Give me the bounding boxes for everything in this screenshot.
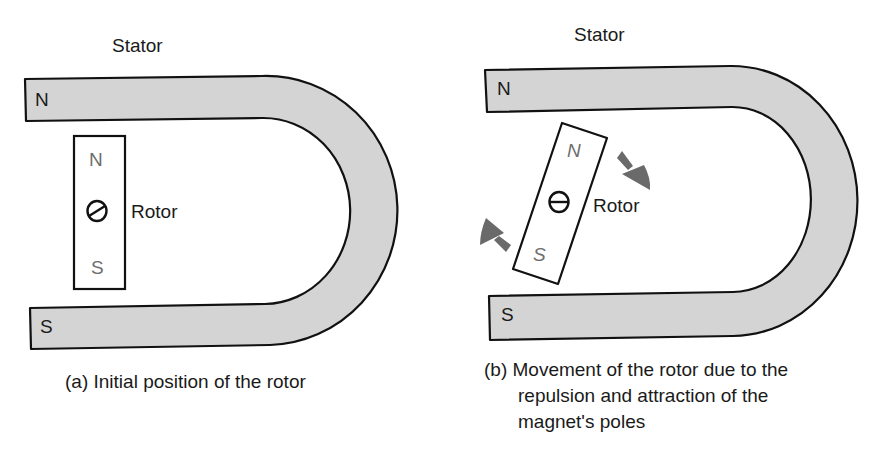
caption-b-line2: repulsion and attraction of the <box>484 383 788 409</box>
rotor-north-pole-b: N <box>567 140 581 162</box>
stator-south-pole-b: S <box>501 304 514 326</box>
stator-north-pole-a: N <box>35 89 49 111</box>
caption-b: (b) Movement of the rotor due to the rep… <box>484 357 788 435</box>
caption-b-line3: magnet's poles <box>484 409 788 435</box>
stator-label-b: Stator <box>574 24 625 46</box>
rotor-south-pole-b: S <box>533 244 546 266</box>
rotor-label-a: Rotor <box>131 201 177 223</box>
stator-north-pole-b: N <box>497 78 511 100</box>
rotor-north-pole-a: N <box>89 149 103 171</box>
rotor-south-pole-a: S <box>91 257 104 279</box>
stator-south-pole-a: S <box>40 316 53 338</box>
rotation-arrow-top-icon <box>617 151 650 190</box>
caption-b-line1: (b) Movement of the rotor due to the <box>484 357 788 383</box>
rotor-label-b: Rotor <box>593 195 639 217</box>
stator-label-a: Stator <box>112 35 163 57</box>
rotation-arrow-bottom-icon <box>480 218 511 252</box>
caption-a: (a) Initial position of the rotor <box>65 369 306 395</box>
